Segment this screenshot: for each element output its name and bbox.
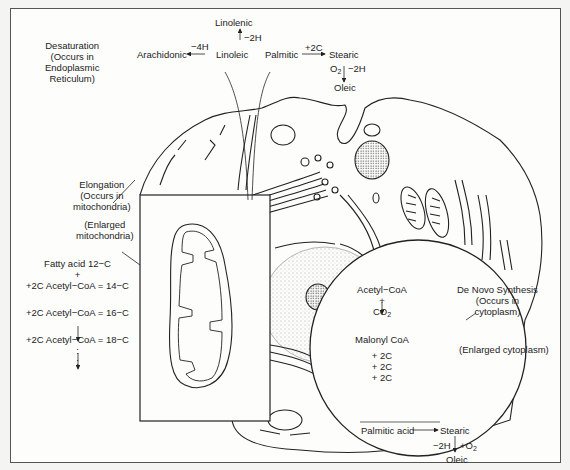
enlarged-mitochondria-box (140, 195, 270, 421)
stearic-b-label: Stearic (440, 425, 470, 436)
plus-o2-label: +O2 (460, 440, 477, 454)
elongation-label: Elongation (Occurs in mitochondria) (73, 179, 131, 212)
plus-2c-label: +2C (305, 42, 323, 53)
de-novo-label: De Novo Synthesis (Occurs in cytoplasm) (457, 284, 538, 317)
minus-4h-label: −4H (191, 41, 209, 52)
minus-2h-b-label: −2H (348, 63, 366, 74)
desaturation-label: Desaturation (Occurs in Endoplasmic Reti… (45, 40, 99, 84)
oleic-label: Oleic (334, 82, 356, 93)
minus-2h-c-label: −2H (433, 440, 451, 451)
oleic-b-label: Oleic (446, 454, 468, 465)
linoleic-label: Linoleic (216, 49, 248, 60)
enlarged-cytoplasm-label: (Enlarged cytoplasm) (459, 344, 549, 355)
linolenic-label: Linolenic (215, 17, 253, 28)
arachidonic-label: Arachidonic (137, 49, 187, 60)
enlarged-mitochondria-label: (Enlarged mitochondria) (76, 219, 134, 241)
elongation-steps: Fatty acid 12−C + +2C Acetyl−CoA = 14−C … (20, 258, 135, 367)
minus-2h-label: −2H (244, 32, 262, 43)
palmitic-acid-label: Palmitic acid (361, 425, 414, 436)
stearic-label: Stearic (329, 49, 359, 60)
palmitic-label: Palmitic (265, 49, 298, 60)
o2-label: O2 (330, 63, 341, 77)
de-novo-steps: Acetyl−CoA + CO2 Malonyl CoA + 2C + 2C +… (342, 284, 422, 383)
